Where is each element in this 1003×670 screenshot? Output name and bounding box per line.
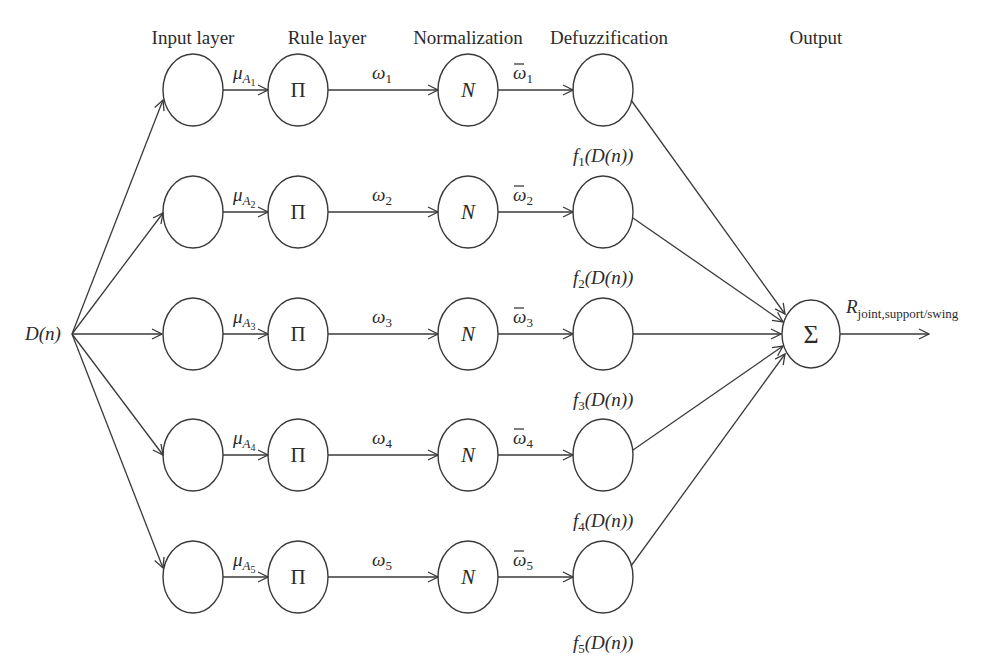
output-node-group: Σ Rjoint,support/swing — [782, 296, 959, 368]
rule-row-4: μA4 Π ω4 N ω4 f4(D(n)) — [163, 346, 783, 534]
mu-label-1: μA1 — [232, 62, 256, 88]
mu-label-2: μA2 — [232, 184, 256, 210]
header-normalization: Normalization — [413, 27, 523, 48]
product-symbol-2: Π — [290, 200, 305, 224]
norm-weight-label-1: ω1 — [513, 62, 533, 86]
header-rule-layer: Rule layer — [288, 27, 367, 48]
header-output: Output — [790, 27, 844, 48]
input-node-4 — [163, 419, 223, 491]
input-fanout-edges — [72, 100, 163, 568]
defuzz-node-1 — [573, 54, 633, 126]
header-defuzzification: Defuzzification — [550, 27, 669, 48]
input-node-5 — [163, 541, 223, 613]
norm-weight-label-4: ω4 — [513, 427, 533, 451]
weight-label-3: ω3 — [372, 306, 392, 330]
defuzz-node-2 — [573, 176, 633, 248]
defuzz-node-3 — [573, 298, 633, 370]
weight-label-5: ω5 — [372, 549, 392, 573]
defuzz-node-5 — [573, 541, 633, 613]
mu-label-4: μA4 — [232, 427, 256, 453]
norm-symbol-1: N — [460, 78, 476, 102]
norm-weight-label-2: ω2 — [513, 184, 533, 208]
defuzz-node-4 — [573, 419, 633, 491]
rule-row-3: μA3 Π ω3 N ω3 f3(D(n)) — [163, 298, 781, 413]
norm-weight-label-3: ω3 — [513, 306, 533, 330]
input-node-1 — [163, 54, 223, 126]
weight-label-2: ω2 — [372, 184, 392, 208]
rule-row-1: μA1 Π ω1 N ω1 f1(D(n)) — [163, 54, 785, 314]
norm-symbol-3: N — [460, 322, 476, 346]
input-node-3 — [163, 298, 223, 370]
f-label-2: f2(D(n)) — [573, 267, 633, 291]
product-symbol-3: Π — [290, 322, 305, 346]
mu-label-3: μA3 — [232, 306, 256, 332]
mu-label-5: μA5 — [232, 549, 256, 575]
product-symbol-5: Π — [290, 565, 305, 589]
norm-symbol-5: N — [460, 565, 476, 589]
anfis-diagram: Input layer Rule layer Normalization Def… — [0, 0, 1003, 670]
header-input-layer: Input layer — [152, 27, 236, 48]
sum-symbol: Σ — [803, 320, 818, 349]
product-symbol-1: Π — [290, 78, 305, 102]
norm-weight-label-5: ω5 — [513, 549, 533, 573]
norm-symbol-2: N — [460, 200, 476, 224]
weight-label-4: ω4 — [372, 427, 392, 451]
input-label-dn: D(n) — [24, 323, 61, 345]
f-label-4: f4(D(n)) — [573, 510, 633, 534]
rule-row-5: μA5 Π ω5 N ω5 f5(D(n)) — [163, 354, 785, 656]
f-label-5: f5(D(n)) — [573, 632, 633, 656]
weight-label-1: ω1 — [372, 62, 392, 86]
f-label-3: f3(D(n)) — [573, 389, 633, 413]
output-label: Rjoint,support/swing — [845, 296, 959, 321]
product-symbol-4: Π — [290, 443, 305, 467]
norm-symbol-4: N — [460, 443, 476, 467]
rule-row-2: μA2 Π ω2 N ω2 f2(D(n)) — [163, 176, 783, 322]
input-node-2 — [163, 176, 223, 248]
f-label-1: f1(D(n)) — [573, 145, 633, 169]
